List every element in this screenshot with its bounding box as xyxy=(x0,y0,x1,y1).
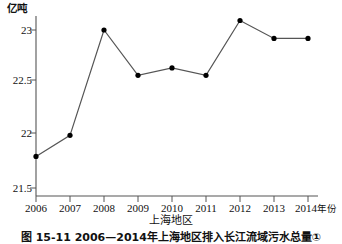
data-point-2007 xyxy=(67,133,72,138)
chart-plot-area: 亿吨 23 22.5 22 21.5 xyxy=(0,0,342,214)
data-point-2014 xyxy=(305,36,310,41)
x-tick-label-2012: 2012 xyxy=(223,202,257,214)
data-series-line xyxy=(36,21,308,157)
data-point-2012 xyxy=(237,18,242,23)
data-point-2008 xyxy=(101,27,106,32)
region-label: 上海地区 xyxy=(0,214,342,227)
data-point-2009 xyxy=(135,73,140,78)
data-point-2010 xyxy=(169,65,174,70)
x-tick-label-2013: 2013 xyxy=(257,202,291,214)
x-tick-label-2008: 2008 xyxy=(87,202,121,214)
x-tick-label-2010: 2010 xyxy=(155,202,189,214)
y-axis-ticks xyxy=(30,30,36,188)
x-tick-label-2007: 2007 xyxy=(53,202,87,214)
line-chart-svg xyxy=(0,0,342,214)
figure-caption: 图 15-11 2006—2014年上海地区排入长江流域污水总量① xyxy=(0,231,342,244)
data-point-2013 xyxy=(271,36,276,41)
data-point-markers xyxy=(33,18,310,159)
x-tick-label-2006: 2006 xyxy=(19,202,53,214)
data-point-2006 xyxy=(33,154,38,159)
x-tick-label-2009: 2009 xyxy=(121,202,155,214)
data-point-2011 xyxy=(203,73,208,78)
x-tick-label-2011: 2011 xyxy=(189,202,223,214)
